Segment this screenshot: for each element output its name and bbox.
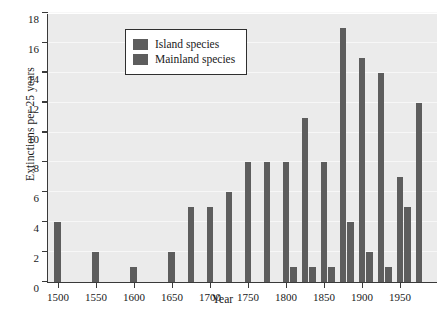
x-tick-label: 1700 [199,291,221,303]
x-tick-label: 1550 [85,291,107,303]
bar [321,162,328,282]
y-axis-label: Extinctions per 25 years [24,34,36,214]
x-tick [248,282,249,288]
legend-item: Mainland species [133,53,235,66]
bar [359,58,366,282]
plot-area: 024681012141618 150015501600165017001750… [47,14,437,283]
x-tick [362,282,363,288]
gridline [48,12,437,13]
x-tick [134,282,135,288]
legend-label-island: Island species [155,38,219,51]
x-tick-label: 1750 [237,291,259,303]
y-tick [42,251,48,252]
bar [245,162,252,282]
y-tick [42,42,48,43]
bar [397,177,404,282]
x-tick-label: 1850 [313,291,335,303]
x-tick-label: 1650 [161,291,183,303]
x-tick [58,282,59,288]
bar [226,192,233,282]
x-tick [96,282,97,288]
bar [404,207,411,282]
extinctions-bar-chart: Extinctions per 25 years Year 0246810121… [0,0,445,311]
x-tick [172,282,173,288]
y-tick [42,221,48,222]
legend-label-mainland: Mainland species [155,53,235,66]
y-tick [42,161,48,162]
x-tick [210,282,211,288]
bar [92,252,99,282]
bar [328,267,335,282]
x-tick-label: 1900 [351,291,373,303]
x-tick [286,282,287,288]
bar [188,207,195,282]
bar [378,73,385,282]
x-tick-label: 1600 [123,291,145,303]
bar [264,162,271,282]
bar [366,252,373,282]
y-tick [42,131,48,132]
bar [283,162,290,282]
bar [385,267,392,282]
y-tick [42,12,48,13]
x-tick [400,282,401,288]
legend-item: Island species [133,38,235,51]
bar [130,267,137,282]
bar [207,207,214,282]
x-tick-label: 1800 [275,291,297,303]
bar [309,267,316,282]
bar [302,118,309,282]
y-tick [42,281,48,282]
x-tick-label: 1950 [389,291,411,303]
bar [347,222,354,282]
y-tick [42,71,48,72]
y-tick [42,101,48,102]
legend-swatch-mainland [133,54,148,65]
y-tick [42,191,48,192]
x-tick-label: 1500 [47,291,69,303]
bar [340,28,347,282]
bar [54,222,61,282]
bar [290,267,297,282]
legend-swatch-island [133,39,148,50]
x-tick [324,282,325,288]
bar [416,103,423,282]
bar [168,252,175,282]
chart-legend: Island species Mainland species [125,29,247,75]
